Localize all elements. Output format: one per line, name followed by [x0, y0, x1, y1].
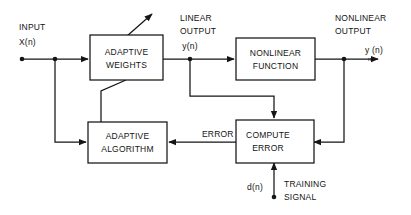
label-input-title: INPUT: [19, 22, 46, 32]
wire-weight-adaptation-arrow: [127, 14, 152, 36]
block-nonlinear-function-line1: NONLINEAR: [250, 48, 301, 58]
label-nonlinear-output-signal-subscript: nl: [368, 56, 372, 62]
block-compute-error-line1: COMPUTE: [246, 130, 290, 140]
block-diagram-canvas: ADAPTIVE WEIGHTS NONLINEAR FUNCTION ADAP…: [0, 0, 411, 215]
label-linear-output-line2: OUTPUT: [180, 26, 216, 36]
block-adaptive-algorithm-line1: ADAPTIVE: [106, 131, 150, 141]
wire-nonlinear-output-to-compute-error: [314, 59, 344, 142]
diagram-svg: ADAPTIVE WEIGHTS NONLINEAR FUNCTION ADAP…: [0, 0, 411, 215]
label-training-signal-line2: SIGNAL: [284, 192, 316, 202]
block-adaptive-algorithm[interactable]: [88, 122, 167, 163]
label-training-signal-symbol: d(n): [247, 182, 263, 192]
wire-input-to-adaptive-algorithm: [55, 59, 86, 142]
block-compute-error[interactable]: [236, 120, 314, 163]
input-terminal-dot: [20, 57, 25, 62]
label-nonlinear-output-signal: y (n): [365, 45, 383, 55]
block-compute-error-line2: ERROR: [252, 143, 284, 153]
label-linear-output-line1: LINEAR: [180, 13, 212, 23]
block-adaptive-weights-line2: WEIGHTS: [106, 60, 147, 70]
block-nonlinear-function[interactable]: [236, 38, 315, 80]
block-adaptive-weights-line1: ADAPTIVE: [105, 47, 149, 57]
label-linear-output-signal: y(n): [182, 41, 197, 51]
label-error: ERROR: [202, 129, 234, 139]
block-nonlinear-function-line2: FUNCTION: [253, 61, 299, 71]
block-adaptive-algorithm-line2: ALGORITHM: [101, 144, 153, 154]
label-input-signal: X(n): [19, 37, 36, 47]
label-nonlinear-output-line2: OUTPUT: [335, 26, 371, 36]
label-training-signal-line1: TRAINING: [284, 179, 326, 189]
block-adaptive-weights[interactable]: [90, 35, 163, 80]
label-nonlinear-output-line1: NONLINEAR: [335, 13, 386, 23]
training-signal-terminal-dot: [272, 195, 277, 200]
wire-algorithm-to-weights: [101, 80, 126, 122]
